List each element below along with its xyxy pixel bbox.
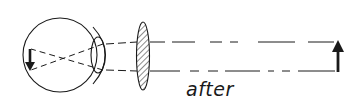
cornea [93,27,106,84]
eye-correction-diagram [0,0,357,109]
rays-eye-to-lens [106,42,137,71]
retinal-image-arrow-icon [25,49,35,71]
diagram-caption: after [186,78,234,100]
parallel-light-rays [150,42,335,71]
corrective-lens [137,22,150,90]
object-arrow-icon [332,40,344,72]
eyeball [23,18,97,92]
